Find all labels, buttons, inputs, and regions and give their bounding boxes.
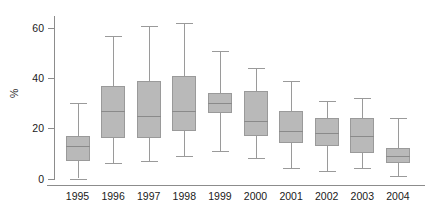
whisker-cap-upper <box>354 98 371 99</box>
box-iqr <box>172 76 196 131</box>
whisker-cap-lower <box>248 158 265 159</box>
y-axis-tick-label: 20 <box>10 123 44 134</box>
whisker-upper <box>362 98 363 118</box>
whisker-cap-lower <box>283 168 300 169</box>
whisker-cap-upper <box>390 118 407 119</box>
whisker-cap-upper <box>105 36 122 37</box>
y-axis-tick-label: 40 <box>10 73 44 84</box>
median-line <box>386 156 410 157</box>
median-line <box>279 131 303 132</box>
whisker-cap-upper <box>141 26 158 27</box>
x-axis-tick-label: 2004 <box>376 191 420 202</box>
whisker-lower <box>291 143 292 168</box>
whisker-cap-lower <box>319 171 336 172</box>
whisker-upper <box>220 51 221 94</box>
whisker-cap-lower <box>176 156 193 157</box>
median-line <box>350 136 374 137</box>
box-plot-chart: % 0204060 199519961997199819992000200120… <box>0 0 432 215</box>
whisker-lower <box>398 163 399 176</box>
whisker-upper <box>113 36 114 86</box>
whisker-cap-upper <box>319 101 336 102</box>
whisker-cap-lower <box>141 161 158 162</box>
whisker-lower <box>220 113 221 151</box>
box-iqr <box>244 91 268 136</box>
whisker-upper <box>149 26 150 81</box>
whisker-upper <box>78 103 79 136</box>
box-iqr <box>101 86 125 139</box>
y-axis-tick <box>48 78 54 79</box>
box-iqr <box>315 118 339 146</box>
whisker-upper <box>398 118 399 148</box>
whisker-cap-lower <box>70 179 87 180</box>
y-axis-tick-label: 0 <box>10 174 44 185</box>
whisker-cap-upper <box>212 51 229 52</box>
median-line <box>315 133 339 134</box>
whisker-upper <box>184 23 185 76</box>
y-axis-tick <box>48 28 54 29</box>
whisker-cap-lower <box>212 151 229 152</box>
whisker-cap-upper <box>70 103 87 104</box>
median-line <box>244 121 268 122</box>
whisker-cap-lower <box>390 176 407 177</box>
y-axis-line <box>54 16 55 180</box>
whisker-upper <box>327 101 328 119</box>
median-line <box>208 103 232 104</box>
whisker-lower <box>327 146 328 171</box>
box-iqr <box>66 136 90 161</box>
whisker-lower <box>184 131 185 156</box>
whisker-cap-upper <box>176 23 193 24</box>
whisker-cap-lower <box>354 168 371 169</box>
whisker-lower <box>149 138 150 161</box>
y-axis-tick <box>48 128 54 129</box>
median-line <box>137 116 161 117</box>
whisker-upper <box>291 81 292 111</box>
x-axis-line <box>47 185 425 186</box>
whisker-upper <box>256 68 257 91</box>
whisker-lower <box>256 136 257 159</box>
box-iqr <box>137 81 161 139</box>
box-iqr <box>279 111 303 144</box>
whisker-lower <box>78 161 79 179</box>
median-line <box>66 146 90 147</box>
whisker-lower <box>113 138 114 163</box>
y-axis-tick-label: 60 <box>10 23 44 34</box>
whisker-cap-upper <box>283 81 300 82</box>
y-axis-tick <box>48 179 54 180</box>
whisker-cap-upper <box>248 68 265 69</box>
median-line <box>172 111 196 112</box>
whisker-lower <box>362 153 363 168</box>
median-line <box>101 111 125 112</box>
whisker-cap-lower <box>105 163 122 164</box>
